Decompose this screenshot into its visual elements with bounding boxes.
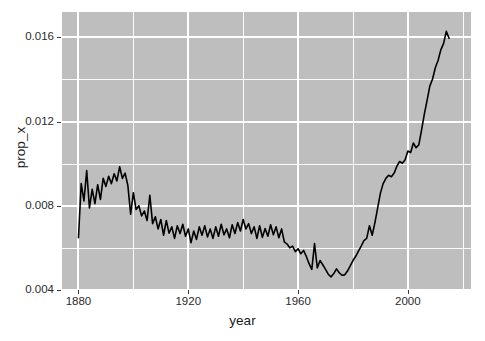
- y-tick-mark: [57, 122, 61, 123]
- chart-root: prop_x year 0.0040.0080.0120.01618801920…: [0, 0, 485, 341]
- line-series: [62, 12, 471, 290]
- y-tick-label: 0.012: [8, 115, 54, 127]
- x-tick-label: 2000: [395, 295, 421, 307]
- x-tick-label: 1920: [175, 295, 201, 307]
- series-path-prop-x: [78, 31, 449, 277]
- x-tick-label: 1960: [285, 295, 311, 307]
- y-tick-label: 0.004: [8, 283, 54, 295]
- x-axis-title: year: [0, 313, 485, 328]
- x-tick-mark: [298, 290, 299, 294]
- x-tick-mark: [188, 290, 189, 294]
- y-tick-label: 0.008: [8, 199, 54, 211]
- y-tick-mark: [57, 37, 61, 38]
- x-tick-mark: [408, 290, 409, 294]
- y-tick-label: 0.016: [8, 30, 54, 42]
- x-tick-label: 1880: [66, 295, 92, 307]
- y-axis-title: prop_x: [13, 88, 28, 208]
- y-tick-mark: [57, 290, 61, 291]
- x-tick-mark: [78, 290, 79, 294]
- y-tick-mark: [57, 206, 61, 207]
- plot-panel: [62, 12, 471, 290]
